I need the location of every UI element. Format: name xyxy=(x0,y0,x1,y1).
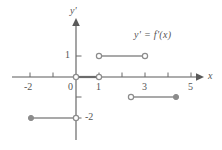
x-tick-label-3: 3 xyxy=(142,82,147,92)
open-endpoint-x-1-axis xyxy=(96,74,101,79)
x-axis-label: x xyxy=(208,71,212,81)
x-axis-arrow-icon xyxy=(196,73,204,81)
x-tick-label-1: 1 xyxy=(96,82,101,92)
x-tick-label-0: 0 xyxy=(68,82,73,92)
closed-endpoint-x--2 xyxy=(28,115,33,120)
x-tick-label-5: 5 xyxy=(188,82,193,92)
x-tick-label--2: -2 xyxy=(24,82,32,92)
y-tick-label--2: -2 xyxy=(85,112,93,122)
function-label: y' = f'(x) xyxy=(134,30,171,40)
open-endpoint-x-0-low xyxy=(73,115,78,120)
y-tick-label-1: 1 xyxy=(65,50,70,60)
open-endpoint-x-1-high xyxy=(96,53,101,58)
open-endpoint-x-3-low xyxy=(128,94,133,99)
step-segment-2 xyxy=(73,74,101,79)
step-segment-4 xyxy=(128,94,178,99)
y-axis-ticks xyxy=(76,56,82,118)
y-axis-arrow-icon xyxy=(72,18,80,26)
y-axis-label: y' xyxy=(70,6,77,16)
step-segment-1 xyxy=(28,115,78,120)
plot-canvas xyxy=(0,0,222,150)
closed-endpoint-x-5 xyxy=(173,94,178,99)
open-endpoint-x-3-high xyxy=(142,53,147,58)
x-axis-ticks xyxy=(30,73,191,78)
open-endpoint-x-0-axis xyxy=(73,74,78,79)
step-segment-3 xyxy=(96,53,147,58)
derivative-step-function-figure: -2 0 1 3 5 1 -2 y' x y' = f'(x) xyxy=(0,0,222,150)
